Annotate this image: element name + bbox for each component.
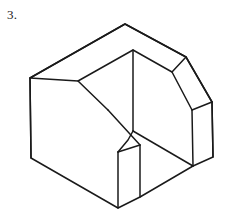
figure-panel: 3. bbox=[0, 0, 225, 221]
right-arm-right-vertical-edge bbox=[212, 102, 213, 157]
left-front-face-fill bbox=[30, 78, 118, 208]
right-arm-vertical-edge bbox=[192, 110, 193, 166]
right-arm-front-face-fill bbox=[192, 102, 213, 166]
left-vertical-edge bbox=[30, 78, 31, 158]
solid-fills bbox=[30, 24, 213, 208]
isometric-block-drawing bbox=[0, 0, 225, 221]
